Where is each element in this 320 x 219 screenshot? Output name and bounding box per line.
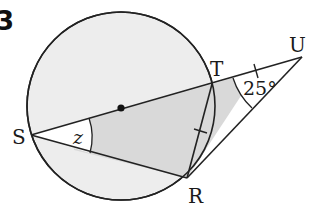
- label-U: U: [289, 33, 306, 57]
- angle-label-25: 25°: [243, 77, 277, 99]
- geometry-diagram: 3 S T U R z 25°: [0, 0, 320, 219]
- label-R: R: [188, 184, 204, 208]
- center-point: [117, 104, 124, 111]
- question-number: 3: [0, 6, 14, 36]
- angle-label-z: z: [72, 126, 84, 148]
- label-S: S: [12, 125, 26, 149]
- label-T: T: [210, 57, 224, 81]
